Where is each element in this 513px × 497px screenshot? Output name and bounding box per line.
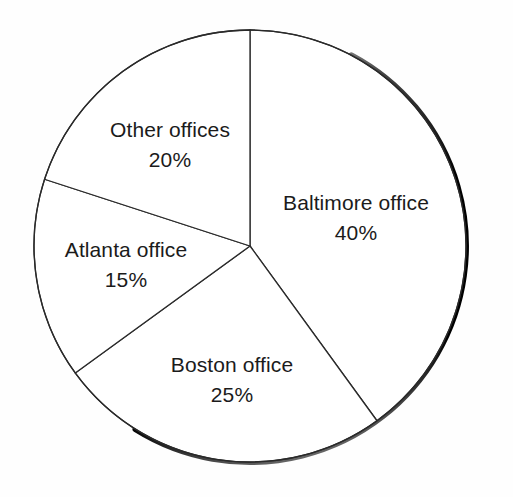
pie-slice-group — [34, 30, 466, 462]
pie-chart-figure: Baltimore office 40% Boston office 25% A… — [0, 0, 513, 497]
pie-chart-graphic — [0, 0, 513, 497]
